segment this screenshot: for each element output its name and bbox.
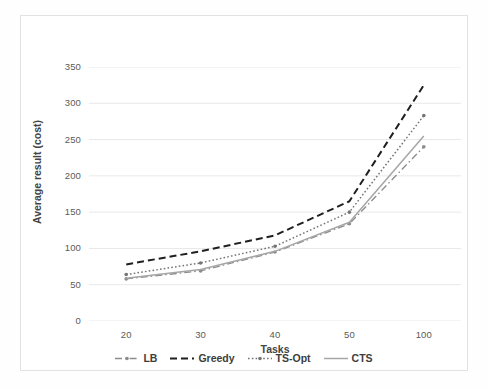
legend-label: LB	[143, 352, 157, 364]
x-axis-tick-label: 30	[181, 329, 221, 340]
plot-area	[89, 67, 461, 321]
legend-item-greedy[interactable]: Greedy	[170, 352, 234, 364]
x-axis-tick-label: 50	[329, 329, 369, 340]
x-axis-tick-label: 100	[404, 329, 444, 340]
line-solid-icon	[324, 354, 348, 363]
data-point	[273, 244, 277, 248]
data-point	[422, 114, 426, 118]
legend-item-cts[interactable]: CTS	[324, 352, 373, 364]
y-axis-tick-label: 0	[21, 316, 81, 326]
y-axis-tick-label: 300	[21, 98, 81, 108]
legend-label: TS-Opt	[276, 352, 311, 364]
legend-label: CTS	[352, 352, 373, 364]
legend-item-lb[interactable]: LB	[115, 352, 157, 364]
line-dotted-icon	[248, 354, 272, 363]
y-axis-tick-label: 200	[21, 171, 81, 181]
series-line-greedy	[126, 85, 424, 264]
data-point	[348, 210, 352, 214]
data-point	[422, 145, 426, 149]
data-point	[199, 261, 203, 265]
y-axis-tick-label: 250	[21, 135, 81, 145]
legend-item-ts-opt[interactable]: TS-Opt	[248, 352, 311, 364]
data-point	[124, 273, 128, 277]
chart-container: Average result (cost) 050100150200250300…	[0, 0, 488, 388]
series-line-lb	[126, 147, 424, 279]
y-axis-tick-label: 350	[21, 62, 81, 72]
series-lines-svg	[89, 67, 461, 321]
y-axis-tick-label: 150	[21, 207, 81, 217]
y-axis-tick-label: 50	[21, 280, 81, 290]
line-dash-dot-icon	[115, 354, 139, 363]
x-axis-tick-label: 20	[106, 329, 146, 340]
legend-label: Greedy	[198, 352, 234, 364]
chart-legend: LBGreedyTS-OptCTS	[0, 352, 488, 364]
y-axis-tick-label: 100	[21, 243, 81, 253]
x-axis-tick-label: 40	[255, 329, 295, 340]
chart-plot-frame: Average result (cost) 050100150200250300…	[20, 15, 468, 371]
line-dashed-icon	[170, 354, 194, 363]
